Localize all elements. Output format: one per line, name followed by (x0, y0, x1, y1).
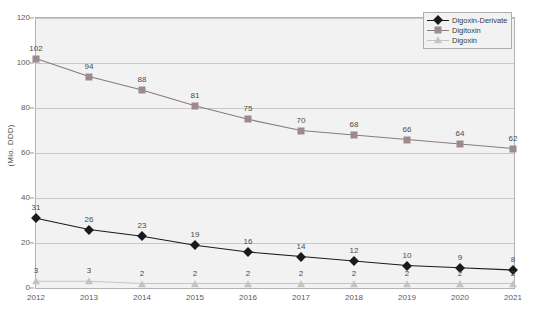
data-point-label: 94 (85, 63, 94, 71)
data-point-marker (510, 145, 517, 152)
y-axis-ticks: 020406080100120 (8, 0, 30, 323)
x-tick-label: 2012 (27, 294, 45, 302)
y-tick-label: 60 (10, 149, 30, 157)
data-point-label: 31 (32, 204, 41, 212)
legend-marker-square-icon (435, 27, 442, 34)
x-tick-label: 2021 (504, 294, 522, 302)
y-tick-label: 0 (10, 284, 30, 292)
y-tick-mark (30, 153, 34, 154)
data-point-label: 3 (34, 267, 38, 275)
data-point-label: 3 (87, 267, 91, 275)
data-point-marker (298, 127, 305, 134)
legend-key (427, 36, 449, 45)
data-point-label: 9 (458, 254, 462, 262)
legend-label: Digitoxin (452, 27, 481, 35)
data-point-marker (139, 87, 146, 94)
data-point-marker (138, 280, 146, 287)
data-point-marker (86, 73, 93, 80)
data-point-label: 26 (85, 216, 94, 224)
y-tick-mark (30, 18, 34, 19)
x-tick-label: 2016 (239, 294, 257, 302)
legend-item: Digitoxin (427, 26, 507, 35)
x-tick-label: 2013 (80, 294, 98, 302)
data-point-label: 68 (350, 121, 359, 129)
legend-key (427, 26, 449, 35)
data-point-marker (245, 116, 252, 123)
y-tick-mark (30, 288, 34, 289)
legend-label: Digoxin (452, 37, 477, 45)
data-point-label: 75 (244, 105, 253, 113)
data-point-label: 8 (511, 256, 515, 264)
data-point-label: 70 (297, 117, 306, 125)
data-point-label: 2 (140, 270, 144, 278)
data-point-marker (85, 277, 93, 284)
data-point-marker (351, 132, 358, 139)
y-tick-label: 120 (10, 14, 30, 22)
data-point-label: 2 (193, 270, 197, 278)
y-tick-label: 80 (10, 104, 30, 112)
x-tick-label: 2014 (133, 294, 151, 302)
y-tick-mark (30, 108, 34, 109)
data-point-label: 2 (405, 270, 409, 278)
plot-area: 3126231916141210981029488817570686664623… (35, 17, 515, 289)
legend-label: Digoxin-Derivate (452, 17, 507, 25)
data-point-marker (509, 280, 517, 287)
data-point-label: 23 (138, 222, 147, 230)
data-point-label: 19 (191, 231, 200, 239)
series-line (36, 218, 513, 270)
data-point-label: 2 (511, 270, 515, 278)
legend: Digoxin-DerivateDigitoxinDigoxin (423, 12, 512, 49)
x-tick-label: 2017 (292, 294, 310, 302)
y-tick-label: 20 (10, 239, 30, 247)
data-point-marker (192, 102, 199, 109)
legend-item: Digoxin (427, 36, 507, 45)
data-point-label: 12 (350, 247, 359, 255)
data-point-marker (244, 280, 252, 287)
series-lines (36, 18, 514, 288)
data-point-marker (457, 141, 464, 148)
data-point-marker (33, 55, 40, 62)
y-tick-label: 40 (10, 194, 30, 202)
data-point-marker (403, 280, 411, 287)
legend-marker-diamond-icon (433, 15, 443, 25)
data-point-marker (191, 280, 199, 287)
data-point-label: 102 (29, 45, 42, 53)
data-point-label: 88 (138, 76, 147, 84)
data-point-label: 2 (458, 270, 462, 278)
x-tick-label: 2019 (398, 294, 416, 302)
y-tick-label: 100 (10, 59, 30, 67)
data-point-label: 66 (403, 126, 412, 134)
x-tick-label: 2015 (186, 294, 204, 302)
data-point-label: 14 (297, 243, 306, 251)
series-line (36, 281, 513, 283)
data-point-marker (32, 277, 40, 284)
data-point-label: 10 (403, 252, 412, 260)
data-point-label: 2 (352, 270, 356, 278)
y-tick-mark (30, 243, 34, 244)
data-point-marker (456, 280, 464, 287)
legend-key (427, 16, 449, 25)
x-tick-label: 2018 (345, 294, 363, 302)
legend-item: Digoxin-Derivate (427, 16, 507, 25)
series-line (36, 59, 513, 149)
data-point-label: 2 (299, 270, 303, 278)
y-tick-mark (30, 198, 34, 199)
data-point-marker (297, 280, 305, 287)
line-chart: (Mio. DDD) 020406080100120 3126231916141… (0, 0, 537, 323)
data-point-label: 81 (191, 92, 200, 100)
data-point-marker (404, 136, 411, 143)
data-point-label: 16 (244, 238, 253, 246)
data-point-label: 64 (456, 130, 465, 138)
legend-marker-triangle-icon (434, 36, 442, 43)
x-tick-label: 2020 (451, 294, 469, 302)
data-point-label: 2 (246, 270, 250, 278)
data-point-label: 62 (509, 135, 518, 143)
y-tick-mark (30, 63, 34, 64)
data-point-marker (350, 280, 358, 287)
